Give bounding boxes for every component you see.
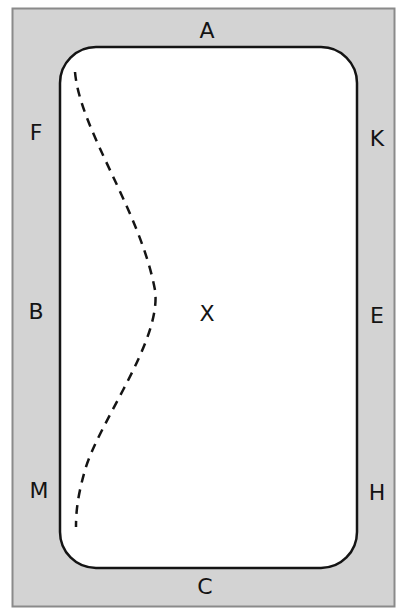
marker-f: F <box>30 122 43 144</box>
marker-m: M <box>30 480 49 502</box>
marker-c: C <box>197 576 212 598</box>
marker-h: H <box>369 482 386 504</box>
marker-x: X <box>199 303 214 325</box>
marker-k: K <box>370 128 384 150</box>
marker-a: A <box>199 20 214 42</box>
marker-e: E <box>370 305 384 327</box>
marker-b: B <box>28 301 43 323</box>
